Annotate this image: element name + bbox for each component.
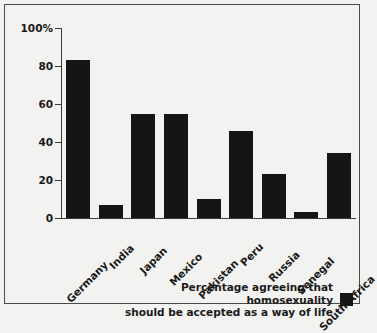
y-axis-tick-labels: 020406080100%: [5, 28, 53, 218]
bar: [197, 199, 221, 218]
y-tick-label: 80: [38, 60, 53, 72]
y-tick-label: 0: [46, 212, 53, 224]
chart-frame: 020406080100% GermanyIndiaJapanMexicoPak…: [4, 4, 360, 304]
x-axis-tick-labels: GermanyIndiaJapanMexicoPakistanPeruRussi…: [62, 221, 355, 279]
x-tick-label: India: [107, 242, 136, 271]
bar: [327, 153, 351, 218]
legend-label: Percentage agreeing that homosexuality s…: [101, 281, 333, 319]
legend-label-line2: should be accepted as a way of life: [101, 306, 333, 319]
y-tick: [55, 180, 61, 181]
bar: [99, 205, 123, 218]
y-tick-label: 20: [38, 174, 53, 186]
bar: [164, 114, 188, 219]
bar: [131, 114, 155, 219]
y-tick-label: 40: [38, 136, 53, 148]
y-tick-label: 100%: [21, 22, 53, 34]
y-tick: [55, 218, 61, 219]
bar: [66, 60, 90, 218]
y-tick: [55, 142, 61, 143]
x-axis-line: [61, 218, 356, 219]
bar: [294, 212, 318, 218]
legend-label-line1: Percentage agreeing that homosexuality: [101, 281, 333, 306]
y-tick-label: 60: [38, 98, 53, 110]
x-tick-label: Japan: [138, 244, 170, 276]
bar: [262, 174, 286, 218]
legend-swatch: [340, 293, 353, 306]
bar-series: [62, 28, 355, 218]
chart-legend: Percentage agreeing that homosexuality s…: [101, 281, 353, 319]
bar: [229, 131, 253, 218]
y-tick: [55, 104, 61, 105]
x-tick-label: Peru: [238, 240, 266, 268]
y-tick: [55, 66, 61, 67]
y-tick: [55, 28, 61, 29]
x-tick-label: Russia: [266, 248, 302, 284]
